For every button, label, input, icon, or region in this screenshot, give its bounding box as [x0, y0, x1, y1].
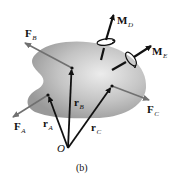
point-C	[110, 84, 113, 87]
label-MD-sub: D	[128, 21, 133, 29]
label-FB-sub: B	[32, 34, 36, 42]
label-rA-sub: A	[48, 124, 52, 132]
force-system-diagram: FB FA FC rA rB rC MD ME O (b)	[0, 0, 173, 181]
label-MD: MD	[117, 15, 133, 26]
label-rC: rC	[91, 122, 101, 133]
figure-caption: (b)	[76, 163, 88, 173]
label-rB: rB	[74, 97, 84, 108]
label-FB: FB	[25, 28, 37, 39]
label-FC-base: F	[147, 103, 154, 115]
label-ME: ME	[152, 46, 167, 57]
label-FA-sub: A	[21, 127, 25, 135]
moment-MD-arrow	[106, 15, 114, 40]
label-origin: O	[57, 143, 65, 154]
label-FA-base: F	[14, 120, 21, 132]
label-ME-sub: E	[163, 52, 167, 60]
point-A	[46, 93, 49, 96]
moment-ME-arrow	[134, 46, 151, 57]
label-FA: FA	[14, 121, 26, 132]
label-rB-sub: B	[79, 103, 83, 111]
label-MD-base: M	[117, 14, 127, 26]
label-ME-base: M	[152, 45, 162, 57]
label-rC-sub: C	[96, 128, 101, 136]
moment-MD-curl-icon	[97, 38, 116, 47]
label-rA: rA	[43, 118, 53, 129]
label-FC-sub: C	[154, 110, 159, 118]
point-B	[70, 66, 73, 69]
label-FC: FC	[147, 104, 159, 115]
label-FB-base: F	[25, 27, 32, 39]
